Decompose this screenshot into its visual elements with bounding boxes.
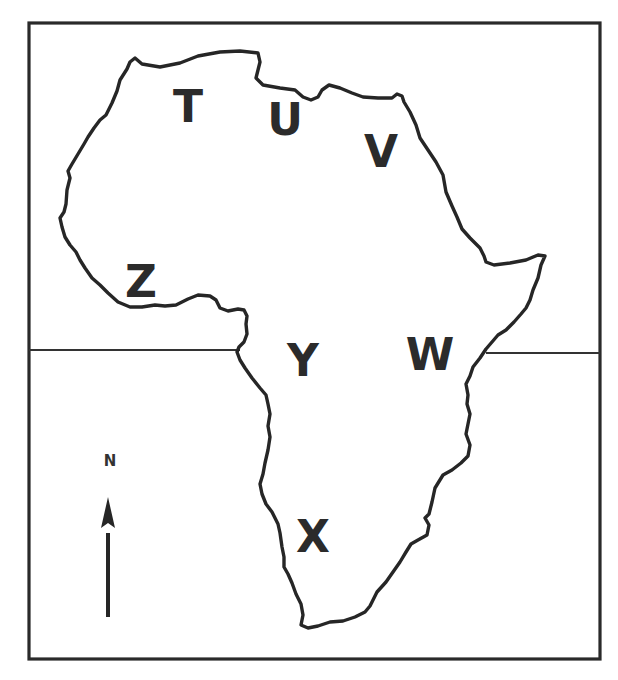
region-label-y: Y bbox=[287, 339, 319, 383]
north-label: N bbox=[104, 452, 117, 470]
region-label-w: W bbox=[406, 333, 455, 377]
region-label-z: Z bbox=[125, 260, 157, 304]
region-label-u: U bbox=[267, 98, 303, 142]
region-label-t: T bbox=[173, 85, 203, 129]
north-arrow-icon bbox=[101, 497, 115, 617]
region-label-x: X bbox=[296, 515, 330, 559]
region-label-v: V bbox=[364, 130, 398, 174]
